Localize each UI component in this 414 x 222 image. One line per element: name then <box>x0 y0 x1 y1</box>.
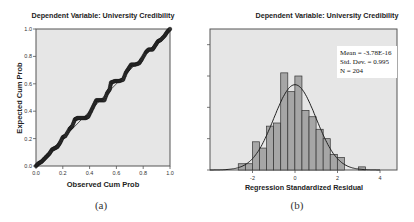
panel-b-caption: (b) <box>291 199 304 212</box>
x-tick-label: 0.0 <box>32 170 40 176</box>
pp-point <box>168 27 172 31</box>
legend-line: Mean = -3.78E-16 <box>340 49 392 57</box>
pp-plot-figure: Dependent Variable: University Credibili… <box>0 0 207 222</box>
y-tick-label: 0.4 <box>24 108 32 114</box>
histogram-bar <box>252 142 259 170</box>
histogram-bar <box>309 117 316 170</box>
histogram-bar <box>323 139 330 170</box>
histogram-bar <box>281 73 288 170</box>
histogram-bar <box>316 129 323 170</box>
y-tick-label: 0.0 <box>24 163 32 169</box>
histogram-bar <box>288 92 295 170</box>
x-tick-label: 2 <box>336 175 339 181</box>
pp-y-label: Expected Cum Prob <box>15 62 24 134</box>
x-tick-label: 0.4 <box>86 170 94 176</box>
y-tick-label: 0.2 <box>24 136 32 142</box>
histogram-figure: Dependent Variable: University Credibili… <box>207 0 414 222</box>
x-tick-label: 0.6 <box>113 170 121 176</box>
y-tick-label: 0.8 <box>24 53 32 59</box>
legend-line: Std. Dev. = 0.995 <box>340 58 389 66</box>
x-tick-label: 0.2 <box>59 170 67 176</box>
histogram-x-label: Regression Standardized Residual <box>245 183 363 192</box>
pp-x-label: Observed Cum Prob <box>67 180 140 189</box>
panel-a-caption: (a) <box>95 199 108 212</box>
histogram-bar <box>302 110 309 170</box>
x-tick-label: -2 <box>250 175 255 181</box>
pp-plot-title: Dependent Variable: University Credibili… <box>32 11 175 20</box>
x-tick-label: 0.8 <box>139 170 147 176</box>
histogram-x-axis: -2024 <box>250 170 381 181</box>
pp-y-axis: 0.00.20.40.60.81.0 <box>24 26 36 169</box>
histogram-title: Dependent Variable: University Credibili… <box>256 11 399 20</box>
histogram-bar <box>295 76 302 170</box>
legend-line: N = 204 <box>340 67 364 75</box>
histogram-bar <box>259 148 266 170</box>
histogram-bar <box>274 123 281 170</box>
x-tick-label: 4 <box>378 175 381 181</box>
histogram-bar <box>245 164 252 170</box>
x-tick-label: 1.0 <box>166 170 174 176</box>
pp-x-axis: 0.00.20.40.60.81.0 <box>32 166 174 176</box>
x-tick-label: 0 <box>293 175 296 181</box>
y-tick-label: 0.6 <box>24 81 32 87</box>
y-tick-label: 1.0 <box>24 26 32 32</box>
